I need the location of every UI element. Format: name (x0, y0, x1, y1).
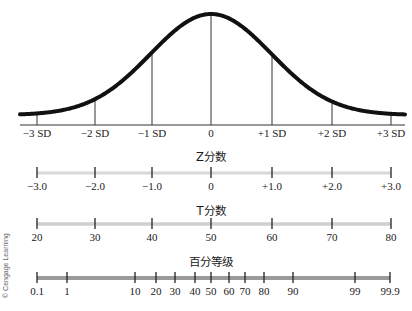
sd-axis-label: +1 SD (258, 128, 287, 139)
t-scale-label: 50 (206, 232, 217, 243)
percentile-scale-label: 99 (350, 286, 361, 297)
z-scale-label: 0 (208, 181, 214, 192)
t-scale-label: 60 (267, 232, 278, 243)
copyright-text: © Cengage Learning (2, 233, 9, 298)
percentile-scale-label: 60 (224, 286, 235, 297)
t-scale-label: 40 (147, 232, 158, 243)
z-scale-label: −2.0 (85, 181, 105, 192)
sd-axis-label: −1 SD (138, 128, 167, 139)
z-scale-label: −1.0 (142, 181, 162, 192)
t-scale-title: T分数 (196, 206, 225, 218)
percentile-scale-label: 0.1 (30, 286, 44, 297)
bell-curve (20, 14, 405, 125)
z-scale-label: +2.0 (322, 181, 342, 192)
z-scale-label: +3.0 (381, 181, 401, 192)
percentile-scale-label: 30 (170, 286, 181, 297)
t-scale-label: 30 (90, 232, 101, 243)
percentile-scale-label: 70 (240, 286, 251, 297)
z-scale-label: +1.0 (262, 181, 282, 192)
percentile-scale-label: 10 (130, 286, 141, 297)
sd-axis-label: 0 (208, 128, 214, 139)
percentile-scale-label: 50 (206, 286, 217, 297)
sd-axis-label: −3 SD (23, 128, 52, 139)
percentile-scale-label: 90 (288, 286, 299, 297)
percentile-scale-label: 20 (151, 286, 162, 297)
percentile-scale-title: 百分等级 (189, 257, 233, 269)
sd-axis-label: −2 SD (81, 128, 110, 139)
t-scale-label: 20 (32, 232, 43, 243)
z-scale-label: −3.0 (27, 181, 47, 192)
percentile-scale-label: 1 (64, 286, 70, 297)
percentile-scale-label: 80 (259, 286, 270, 297)
sd-axis-label: +3 SD (377, 128, 406, 139)
percentile-scale-label: 99.9 (380, 286, 399, 297)
t-scale-label: 70 (327, 232, 338, 243)
sd-axis-label: +2 SD (318, 128, 347, 139)
t-scale-label: 80 (386, 232, 397, 243)
percentile-scale-label: 40 (190, 286, 201, 297)
z-scale-title: Z分数 (196, 152, 226, 164)
